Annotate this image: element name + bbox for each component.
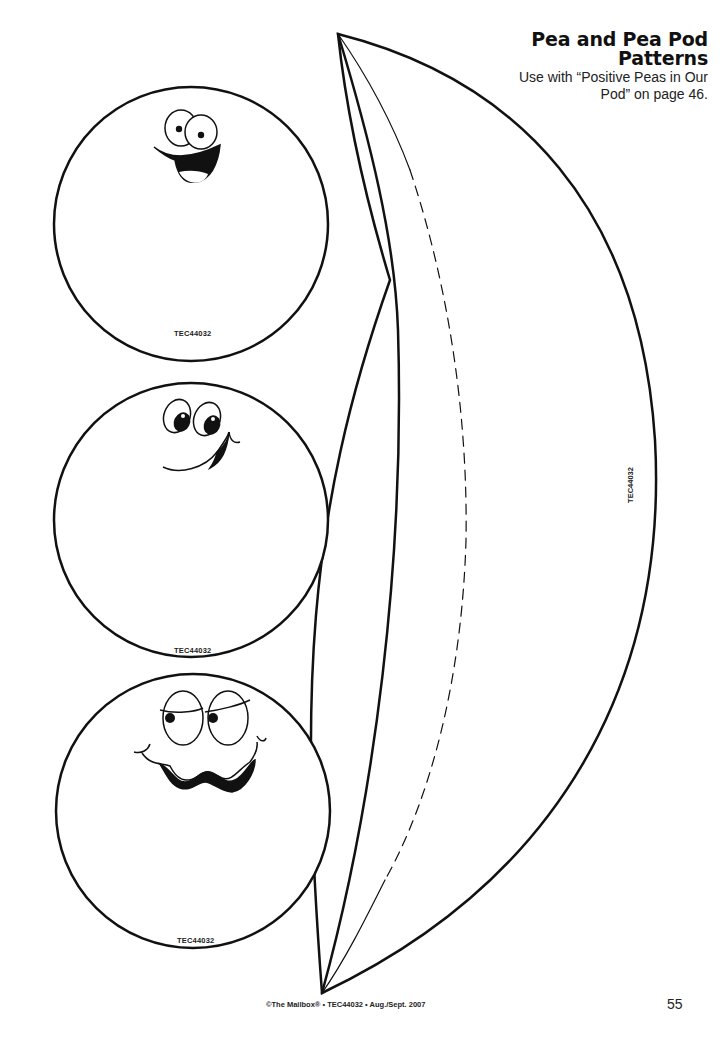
pea-pod-outline — [311, 34, 656, 993]
subtitle-line-2: Pod” on page 46. — [448, 86, 708, 102]
pea-2-shy — [54, 383, 328, 657]
pea-3-code: TEC44032 — [177, 936, 214, 945]
pea-pod-fold-line-dashed — [385, 170, 466, 880]
pea-pod-inner-edge — [322, 34, 399, 993]
pattern-artwork — [0, 0, 720, 1042]
subtitle-line-1: Use with “Positive Peas in Our — [448, 69, 708, 85]
pea-pod-pattern — [311, 34, 656, 993]
footer-credit: ©The Mailbox® • TEC44032 • Aug./Sept. 20… — [266, 1000, 425, 1009]
page-number: 55 — [667, 996, 683, 1012]
pea-pod-code: TEC44032 — [626, 467, 635, 503]
pea-3-skeptical — [56, 674, 330, 948]
page-title-line-2: Patterns — [448, 49, 708, 68]
title-block: Pea and Pea Pod Patterns Use with “Posit… — [448, 30, 708, 102]
pea-1-code: TEC44032 — [174, 329, 211, 338]
pea-2-code: TEC44032 — [174, 646, 211, 655]
pea-1-happy — [54, 87, 328, 361]
